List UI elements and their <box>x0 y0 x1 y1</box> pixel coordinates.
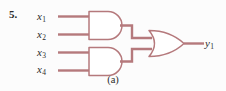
problem-number: 5. <box>9 9 17 20</box>
input-label-x3-subscript: 3 <box>42 51 46 60</box>
and-gate-top <box>89 12 122 40</box>
wire-and-top-to-or <box>120 26 152 39</box>
wire-and-bottom-to-or <box>120 49 152 62</box>
or-gate <box>149 31 184 57</box>
figure-caption: (a) <box>107 75 119 86</box>
input-label-x4: x4 <box>37 64 46 77</box>
input-label-x2: x2 <box>37 29 46 42</box>
and-gate-bottom <box>89 48 122 76</box>
output-label-y1-subscript: 1 <box>210 42 214 51</box>
output-label-y1: y1 <box>205 38 214 51</box>
input-label-x2-subscript: 2 <box>42 33 46 42</box>
input-label-x4-subscript: 4 <box>42 68 46 77</box>
logic-circuit-figure: 5. x1 x2 x3 x4 y1 (a) <box>0 0 226 91</box>
input-label-x1: x1 <box>37 11 46 24</box>
input-label-x1-subscript: 1 <box>42 15 46 24</box>
input-label-x3: x3 <box>37 47 46 60</box>
